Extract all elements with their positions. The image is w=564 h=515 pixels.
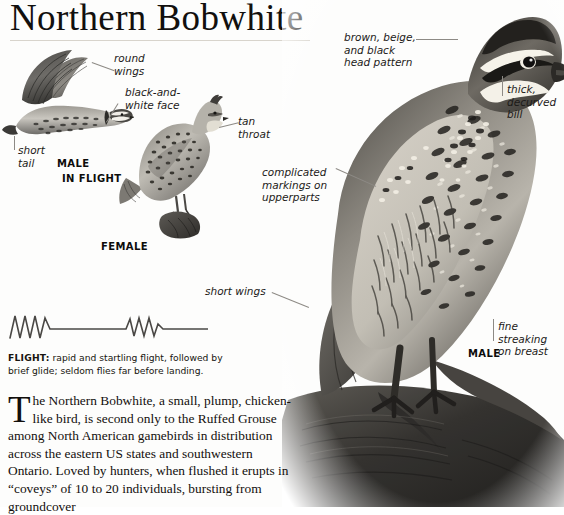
- male-photograph: [282, 0, 564, 507]
- annotation-tan-throat: tan throat: [238, 115, 270, 140]
- label-male-in-flight-sex: MALE: [57, 158, 90, 169]
- annotation-thick-bill: thick, decurved bill: [507, 83, 556, 121]
- annotation-complicated-markings: complicated markings on upperparts: [262, 166, 327, 204]
- leader-head-pattern: [416, 39, 458, 40]
- flight-path-diagram: [8, 312, 208, 342]
- annotation-short-wings: short wings: [205, 285, 266, 298]
- species-description-text: he Northern Bobwhite, a small, plump, ch…: [8, 393, 291, 514]
- flight-label: FLIGHT:: [8, 352, 50, 363]
- leader-thick-bill: [502, 76, 503, 96]
- leader-short-tail: [14, 136, 15, 150]
- drop-cap: T: [8, 393, 33, 425]
- flight-description: FLIGHT: rapid and startling flight, foll…: [8, 352, 226, 377]
- annotation-round-wings: round wings: [114, 52, 145, 77]
- female-perched-illustration: [118, 92, 230, 242]
- annotation-head-pattern: brown, beige, and black head pattern: [344, 31, 416, 69]
- label-male-in-flight-pose: IN FLIGHT: [62, 173, 122, 184]
- leader-fine-streaking: [493, 319, 494, 341]
- page-title: Northern Bobwhite: [10, 0, 304, 39]
- label-female: FEMALE: [101, 241, 148, 252]
- title-divider: [10, 40, 310, 41]
- annotation-fine-streaking: fine streaking on breast: [498, 320, 564, 358]
- label-male-large: MALE: [468, 348, 501, 359]
- species-description: The Northern Bobwhite, a small, plump, c…: [8, 392, 293, 515]
- annotation-short-tail: short tail: [18, 144, 45, 169]
